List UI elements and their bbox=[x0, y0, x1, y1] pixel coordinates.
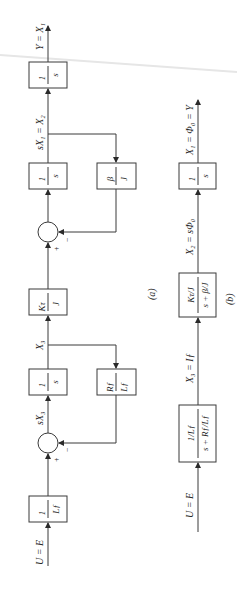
svg-text:s + β/J: s + β/J bbox=[200, 281, 210, 307]
svg-text:1: 1 bbox=[37, 76, 47, 81]
block-mechanical-tf: Kτ/J s + β/J bbox=[179, 273, 216, 317]
input-label-a: U = E bbox=[34, 540, 45, 565]
input-label-b: U = E bbox=[184, 493, 195, 518]
block-Rf-over-Lf: Rƒ Lƒ bbox=[97, 369, 136, 395]
svg-text:−: − bbox=[63, 447, 72, 452]
block-1-over-Lf: 1 Lƒ bbox=[29, 496, 67, 522]
svg-text:+: + bbox=[52, 457, 61, 462]
output-label-b: X₁ = Φ₀ = Y bbox=[184, 104, 195, 156]
signal-X3-b: X₃ = Iƒ bbox=[184, 353, 195, 384]
block-integrator-2: 1 s bbox=[29, 163, 67, 189]
svg-text:s: s bbox=[50, 174, 60, 178]
caption-a: (a) bbox=[146, 288, 158, 300]
signal-X2-b: X₂ = sΦ₀ bbox=[184, 218, 195, 256]
svg-text:Kτ/J: Kτ/J bbox=[186, 286, 196, 304]
svg-text:1: 1 bbox=[187, 177, 197, 182]
block-beta-over-J: β J bbox=[97, 163, 136, 189]
svg-text:Rƒ: Rƒ bbox=[105, 382, 115, 393]
svg-text:Lƒ: Lƒ bbox=[51, 504, 61, 515]
svg-text:1: 1 bbox=[37, 511, 47, 516]
feedback-branch-2 bbox=[48, 134, 116, 162]
feedback-return-2 bbox=[59, 189, 116, 232]
summing-junction-1: + − bbox=[38, 433, 72, 462]
caption-b: (b) bbox=[224, 293, 236, 305]
svg-text:Lƒ: Lƒ bbox=[119, 382, 129, 393]
output-label-a: Y = X₁ bbox=[34, 23, 45, 50]
svg-text:1: 1 bbox=[37, 383, 47, 388]
svg-text:+: + bbox=[52, 246, 61, 251]
block-Ktau-over-J: Kτ J bbox=[29, 289, 67, 315]
svg-text:β: β bbox=[105, 176, 115, 182]
block-integrator-b: 1 s bbox=[179, 163, 216, 189]
block-armature-tf: 1/Lƒ s + Rƒ/Lƒ bbox=[179, 405, 216, 462]
block-integrator-3: 1 s bbox=[29, 62, 67, 88]
block-integrator-1: 1 s bbox=[29, 369, 67, 395]
svg-text:s: s bbox=[50, 73, 60, 77]
diagram-a: U = E 1 Lƒ + − sX₃ 1 s X₃ bbox=[29, 23, 158, 566]
summing-junction-2: + − bbox=[38, 222, 72, 251]
svg-text:1: 1 bbox=[37, 177, 47, 182]
svg-text:s: s bbox=[200, 174, 210, 178]
block-diagram: U = E 1 Lƒ + − sX₃ 1 s X₃ bbox=[0, 0, 237, 591]
svg-text:s: s bbox=[50, 380, 60, 384]
signal-X3: X₃ bbox=[34, 340, 45, 351]
svg-text:s + Rƒ/Lƒ: s + Rƒ/Lƒ bbox=[200, 414, 210, 451]
svg-text:−: − bbox=[63, 237, 72, 242]
svg-text:Kτ: Kτ bbox=[37, 302, 47, 313]
feedback-branch-1 bbox=[48, 345, 116, 368]
feedback-return-1 bbox=[59, 395, 116, 443]
diagram-b: U = E 1/Lƒ s + Rƒ/Lƒ X₃ = Iƒ Kτ/J s + β/… bbox=[179, 100, 236, 532]
signal-sX3: sX₃ bbox=[34, 411, 45, 425]
signal-sX1: sX₁ = X₂ bbox=[34, 115, 45, 150]
svg-text:1/Lƒ: 1/Lƒ bbox=[186, 424, 196, 441]
